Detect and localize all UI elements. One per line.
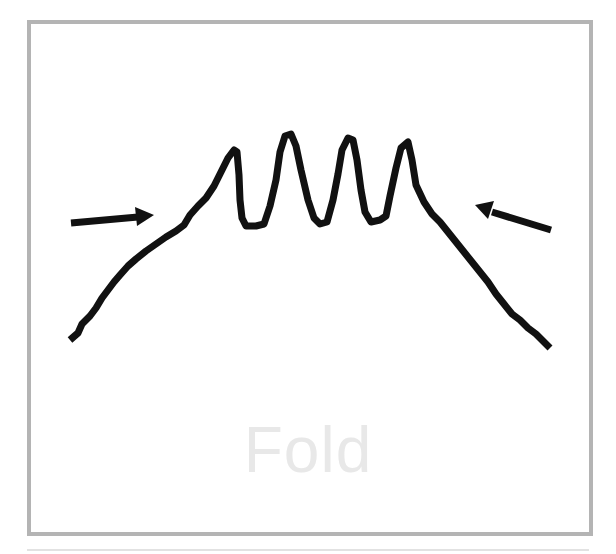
right-arrow-icon <box>475 201 551 230</box>
folded-layer-line <box>70 134 550 348</box>
bottom-divider <box>27 549 589 551</box>
diagram-caption: Fold <box>0 418 616 482</box>
left-arrow-icon <box>71 207 154 226</box>
